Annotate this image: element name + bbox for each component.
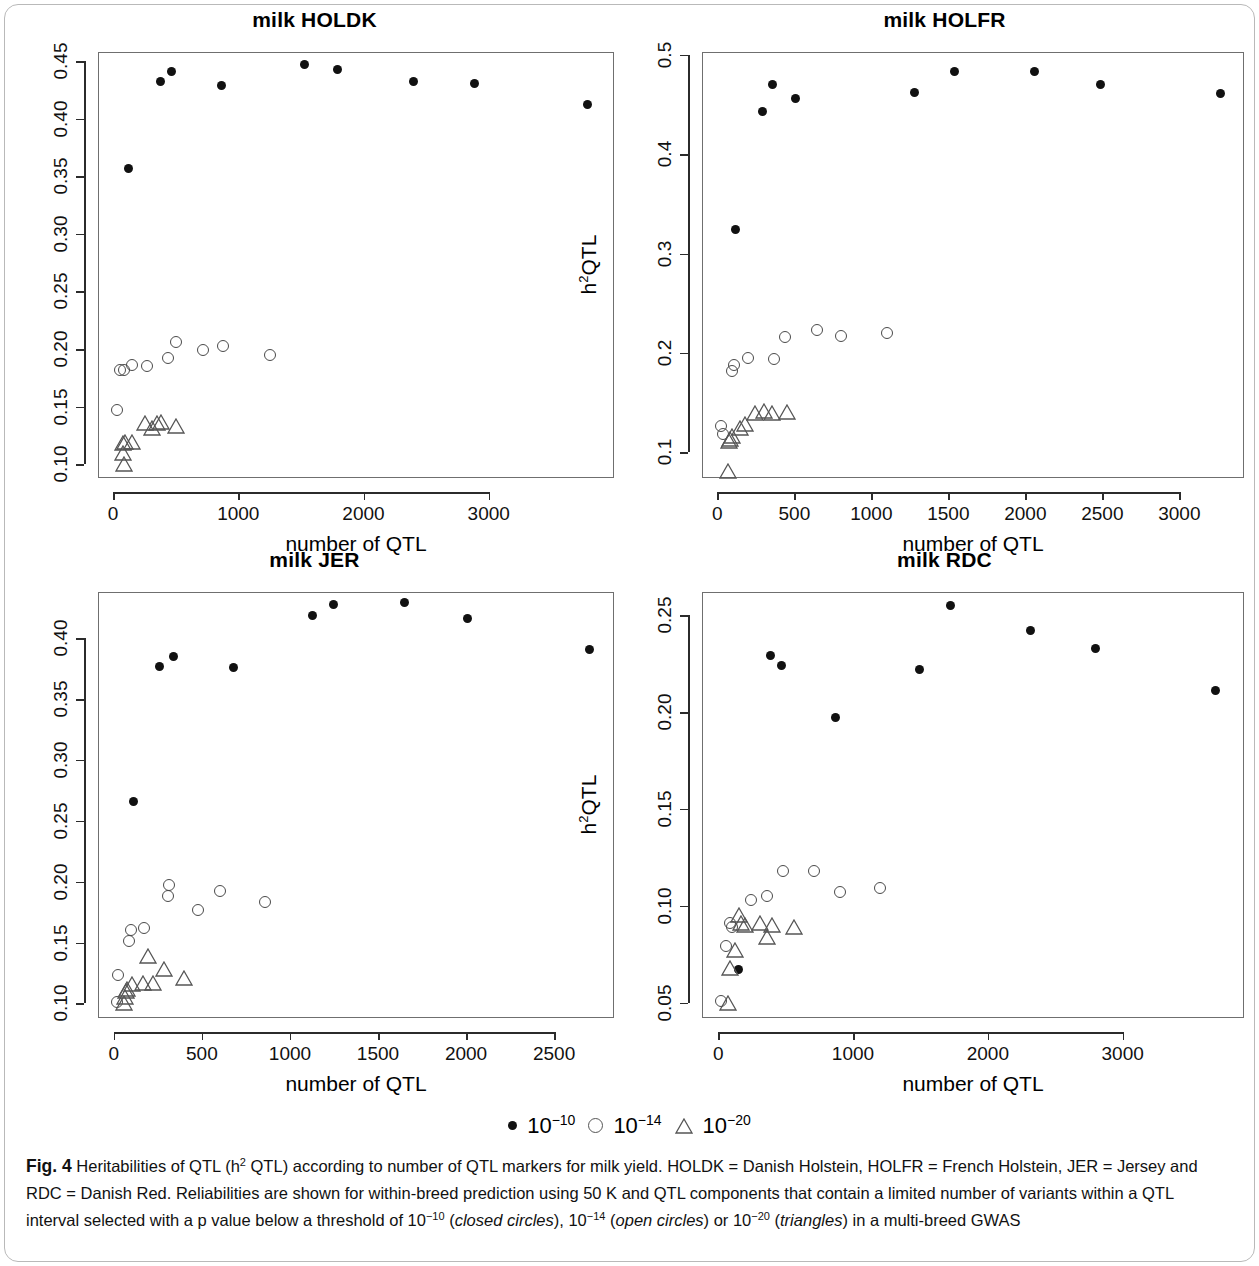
x-tick-label: 1000 [245, 1043, 335, 1065]
data-point-closed-circle [155, 662, 164, 671]
data-point-open-circle [742, 352, 754, 364]
legend-label: 10−14 [613, 1112, 661, 1139]
caption-sup-4: −20 [751, 1210, 770, 1222]
x-tick-label: 3000 [1078, 1043, 1168, 1065]
y-tick-label: 0.1 [654, 415, 676, 489]
caption-text-7: ( [770, 1211, 780, 1229]
y-tick-label: 0.05 [654, 966, 676, 1040]
x-tick [378, 1032, 380, 1040]
plot-area [702, 592, 1244, 1018]
plot-area [98, 52, 614, 478]
x-tick-label: 1500 [333, 1043, 423, 1065]
data-point-triangle [144, 414, 160, 428]
data-point-open-circle [777, 865, 789, 877]
figure-legend: 10−1010−1410−20 [0, 1104, 1259, 1148]
panel-title: milk RDC [630, 548, 1259, 572]
y-tick [76, 943, 84, 945]
y-tick-label: 0.5 [654, 18, 676, 92]
y-tick [76, 349, 84, 351]
data-point-triangle [159, 418, 175, 432]
figure-caption: Fig. 4 Heritabilities of QTL (h2 QTL) ac… [26, 1152, 1231, 1234]
x-tick-label: 1000 [808, 1043, 898, 1065]
x-tick [202, 1032, 204, 1040]
x-axis-line [718, 1032, 1122, 1034]
caption-text-6: ) or 10 [704, 1211, 752, 1229]
x-tick [948, 492, 950, 500]
data-point-triangle [728, 917, 744, 931]
y-tick-label: 0.2 [654, 316, 676, 390]
x-tick [290, 1032, 292, 1040]
x-axis-title: number of QTL [702, 1072, 1244, 1096]
data-point-triangle [777, 919, 793, 933]
data-point-triangle [718, 942, 734, 956]
x-tick [1025, 492, 1027, 500]
caption-text-8: ) in a multi-breed GWAS [842, 1211, 1020, 1229]
x-tick-label: 2000 [319, 503, 409, 525]
x-tick [554, 1032, 556, 1040]
caption-text-3: ( [445, 1211, 455, 1229]
legend-open-circle-icon [588, 1118, 603, 1133]
data-point-closed-circle [1091, 644, 1100, 653]
x-tick [238, 492, 240, 500]
y-tick-label: 0.15 [654, 772, 676, 846]
data-point-closed-circle [129, 797, 138, 806]
x-axis-line [114, 1032, 554, 1034]
data-point-open-circle [881, 327, 893, 339]
data-point-open-circle [745, 894, 757, 906]
y-tick-label: 0.40 [50, 601, 72, 675]
y-tick-label: 0.25 [654, 578, 676, 652]
legend-item: 10−10 [508, 1112, 575, 1139]
x-tick-label: 3000 [444, 503, 534, 525]
x-tick [364, 492, 366, 500]
y-tick [76, 1003, 84, 1005]
caption-italic-2: open circles [616, 1211, 704, 1229]
data-point-open-circle [761, 890, 773, 902]
y-tick [76, 882, 84, 884]
data-point-triangle [115, 434, 131, 448]
y-axis-line [688, 55, 690, 452]
x-tick-label: 3000 [1134, 503, 1224, 525]
y-tick [76, 407, 84, 409]
x-tick-label: 1000 [193, 503, 283, 525]
x-tick [1179, 492, 1181, 500]
x-tick [1102, 492, 1104, 500]
chart-panel-milk-rdc: milk RDC0100020003000number of QTL0.050.… [630, 540, 1259, 1085]
y-tick [76, 760, 84, 762]
caption-text-1: Heritabilities of QTL (h [76, 1157, 240, 1175]
y-tick [76, 176, 84, 178]
data-point-open-circle [192, 904, 204, 916]
data-point-triangle [770, 404, 786, 418]
data-point-open-circle [138, 922, 150, 934]
x-tick-label: 0 [69, 1043, 159, 1065]
data-point-closed-circle [758, 107, 767, 116]
x-tick [113, 492, 115, 500]
data-point-closed-circle [946, 601, 955, 610]
panel-title: milk HOLFR [630, 8, 1259, 32]
data-point-triangle [131, 948, 147, 962]
y-tick [76, 821, 84, 823]
figure-label: Fig. 4 [26, 1156, 72, 1176]
data-point-closed-circle [308, 611, 317, 620]
data-point-triangle [136, 975, 152, 989]
y-axis-line [84, 61, 86, 464]
y-axis-line [84, 638, 86, 1003]
data-point-open-circle [834, 886, 846, 898]
data-point-open-circle [214, 885, 226, 897]
x-tick-label: 2500 [509, 1043, 599, 1065]
data-point-open-circle [125, 924, 137, 936]
chart-panel-milk-holdk: milk HOLDK0100020003000number of QTL0.10… [0, 0, 629, 545]
panel-title: milk HOLDK [0, 8, 629, 32]
y-tick [680, 1003, 688, 1005]
data-point-triangle [755, 405, 771, 419]
data-point-triangle [711, 995, 727, 1009]
caption-sup-3: −14 [587, 1210, 606, 1222]
y-axis-title: h2QTL [576, 205, 601, 325]
y-tick [680, 55, 688, 57]
legend-label: 10−10 [527, 1112, 575, 1139]
data-point-triangle [167, 970, 183, 984]
y-tick [76, 464, 84, 466]
y-tick [680, 154, 688, 156]
data-point-triangle [713, 960, 729, 974]
y-axis-title: h2QTL [576, 745, 601, 865]
y-tick [76, 699, 84, 701]
